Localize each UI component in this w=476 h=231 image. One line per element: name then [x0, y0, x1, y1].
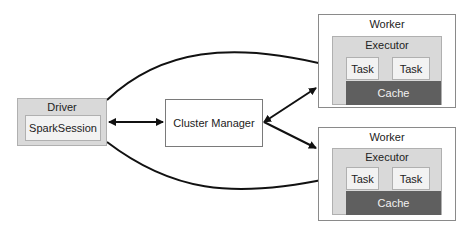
worker-title: Worker	[319, 131, 455, 143]
cluster-manager-node: Cluster Manager	[165, 99, 263, 147]
cluster-manager-worker-1-arrow	[264, 88, 316, 122]
task-box: Task	[392, 57, 430, 80]
cache-box: Cache	[346, 191, 441, 215]
worker-title: Worker	[319, 18, 455, 30]
worker-node-1: Worker Executor Task Task Cache	[318, 14, 456, 108]
task-box: Task	[346, 167, 379, 190]
cluster-manager-worker-2-arrow	[264, 122, 316, 148]
driver-node: Driver SparkSession	[17, 98, 107, 146]
executor-2: Executor Task Task Cache	[332, 148, 442, 215]
driver-to-executor-1-arrow	[107, 52, 331, 100]
worker-node-2: Worker Executor Task Task Cache	[318, 127, 456, 221]
task-box: Task	[346, 57, 379, 80]
driver-title: Driver	[18, 101, 106, 113]
spark-session: SparkSession	[25, 115, 101, 141]
driver-to-executor-2-arrow	[107, 142, 331, 189]
task-box: Task	[392, 167, 430, 190]
executor-1: Executor Task Task Cache	[332, 36, 442, 105]
cache-box: Cache	[346, 81, 441, 105]
executor-title: Executor	[333, 151, 441, 163]
cluster-manager-label: Cluster Manager	[173, 117, 254, 129]
executor-title: Executor	[333, 39, 441, 51]
